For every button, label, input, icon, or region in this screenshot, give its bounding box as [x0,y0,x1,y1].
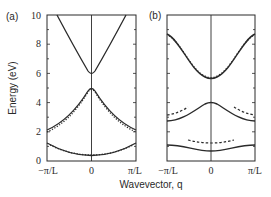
band-structure-figure: (a) (b) Energy (eV) 0 2 4 6 8 10 [0,0,271,197]
panel-b-x-tick-max: π/L [248,165,262,176]
y-tick-6: 6 [36,68,41,79]
y-tick-4: 4 [36,97,41,108]
panel-b-band2-dashed-right [234,107,255,115]
y-tick-labels: 0 2 4 6 8 10 [31,10,41,166]
panel-a-x-tick-max: π/L [128,165,142,176]
panel-b-label: (b) [149,10,161,21]
panel-b-band2-dashed-left [167,107,188,115]
panel-a-x-tick-zero: 0 [89,165,94,176]
panel-b-x-tick-zero: 0 [209,165,214,176]
y-tick-10: 10 [31,10,41,21]
panel-b-x-tick-min: −π/L [158,165,178,176]
x-axis-title: Wavevector, q [120,179,183,190]
panel-a-x-tick-min: −π/L [38,165,58,176]
y-tick-8: 8 [36,38,41,49]
y-axis-title: Energy (eV) [7,61,18,114]
panel-a-plot [47,15,136,161]
x-tick-labels: −π/L 0 π/L −π/L 0 π/L [38,165,262,176]
panel-a-label: (a) [6,11,18,22]
panel-b-plot [167,15,255,161]
y-tick-2: 2 [36,126,41,137]
